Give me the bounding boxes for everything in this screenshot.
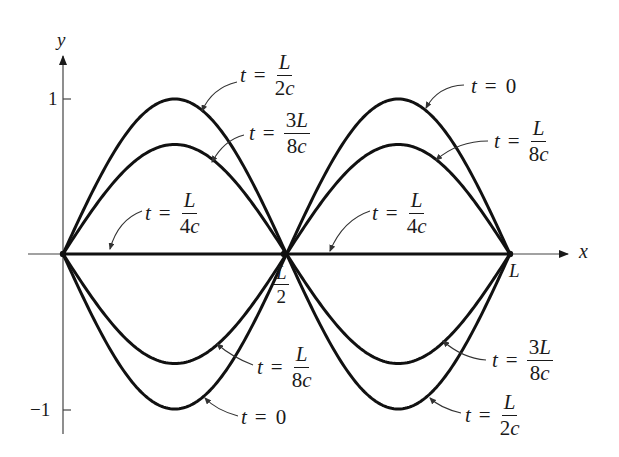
node-half	[281, 251, 287, 257]
label-bottom-left-inner: t= L8c	[257, 344, 312, 391]
y-tick-label-neg1: −1	[30, 400, 50, 419]
label-mid-left: t= L4c	[145, 190, 200, 237]
label-bottom-right-outer: t= L2c	[465, 392, 520, 439]
y-tick-label-1: 1	[48, 89, 58, 108]
node-L	[507, 251, 513, 257]
label-bottom-right-inner: t= 3L8c	[492, 337, 553, 384]
label-bottom-left-outer: t= 0	[241, 405, 286, 430]
x-mark-L: L	[509, 261, 520, 280]
node-origin	[60, 251, 66, 257]
label-top-left-outer: t= L2c	[240, 52, 295, 99]
label-top-right-inner: t= L8c	[494, 118, 549, 165]
standing-wave-diagram: y x 1 −1 L2 L t= L2c t= 3L8c t= L4c t= 0…	[0, 0, 619, 457]
label-top-right-outer: t= 0	[471, 74, 516, 99]
label-top-left-inner: t= 3L8c	[249, 110, 310, 157]
y-axis-label: y	[57, 30, 65, 49]
x-mark-half: L2	[274, 263, 289, 306]
x-axis-label: x	[579, 241, 588, 261]
label-mid-right: t= L4c	[372, 190, 427, 237]
